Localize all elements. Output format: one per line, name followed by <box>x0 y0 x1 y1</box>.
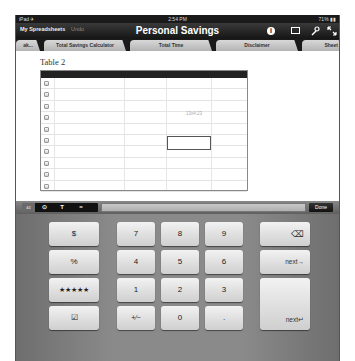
table-row[interactable] <box>41 169 247 180</box>
keyboard-mode-selector: 42 ⊙ T = <box>22 203 98 212</box>
sheet-canvas[interactable]: Table 2 13x4:23 <box>16 51 339 201</box>
table-row[interactable] <box>41 181 247 192</box>
table-row[interactable] <box>41 124 247 135</box>
key-5[interactable]: 5 <box>161 250 199 274</box>
column-divider <box>211 78 212 190</box>
table-row[interactable] <box>41 112 247 123</box>
column-divider <box>54 78 55 190</box>
plus-minus-key[interactable]: +⁄− <box>117 306 155 330</box>
table-row[interactable] <box>41 135 247 146</box>
tab-total-savings-calculator[interactable]: Total Savings Calculator <box>44 40 126 51</box>
column-divider <box>124 78 125 190</box>
checkbox[interactable] <box>44 115 49 120</box>
wrench-icon[interactable] <box>310 26 320 36</box>
checkbox-key[interactable]: ☑ <box>49 306 99 330</box>
tab-divider <box>36 39 44 51</box>
key-3[interactable]: 3 <box>205 278 243 302</box>
tab-disclaimer[interactable]: Disclaimer <box>216 40 298 51</box>
formula-bar: 42 ⊙ T = Done <box>16 201 339 214</box>
info-icon[interactable]: i <box>267 27 275 35</box>
number-mode-button[interactable]: 42 <box>22 203 35 212</box>
sheet-tabs: ak... Total Savings Calculator Total Tim… <box>16 39 339 51</box>
tab-divider <box>208 39 216 51</box>
checkbox[interactable] <box>44 104 49 109</box>
key-4[interactable]: 4 <box>117 250 155 274</box>
table-row[interactable] <box>41 101 247 112</box>
percent-key[interactable]: % <box>49 250 99 274</box>
cell-hint-text: 13x4:23 <box>186 111 202 116</box>
battery-indicator: 71% ▮▮ <box>319 15 336 23</box>
tab-divider <box>122 39 130 51</box>
fullscreen-icon[interactable] <box>327 26 337 36</box>
clock: 2:54 PM <box>16 15 339 23</box>
table-row[interactable] <box>41 158 247 169</box>
checkbox[interactable] <box>44 127 49 132</box>
formula-mode-button[interactable]: = <box>74 203 88 212</box>
next-return-key[interactable]: next↵ <box>260 278 310 330</box>
key-6[interactable]: 6 <box>205 250 243 274</box>
checkbox[interactable] <box>44 161 49 166</box>
table-row[interactable] <box>41 78 247 89</box>
key-2[interactable]: 2 <box>161 278 199 302</box>
table-row[interactable] <box>41 146 247 157</box>
tab-sheet[interactable]: Sheet <box>302 40 340 51</box>
data-table[interactable]: 13x4:23 <box>40 70 248 191</box>
key-9[interactable]: 9 <box>205 222 243 246</box>
currency-key[interactable]: $ <box>49 222 99 246</box>
tab-total-time[interactable]: Total Time <box>130 40 212 51</box>
column-divider <box>166 78 167 190</box>
numeric-keypad: $ % ★★★★★ ☑ 7 8 9 4 5 6 1 2 3 +⁄− 0 . ⌫ … <box>16 214 339 361</box>
date-time-mode-button[interactable]: ⊙ <box>37 203 51 212</box>
text-mode-button[interactable]: T <box>55 203 69 212</box>
checkbox[interactable] <box>44 81 49 86</box>
key-8[interactable]: 8 <box>161 222 199 246</box>
star-rating-key[interactable]: ★★★★★ <box>49 278 99 302</box>
checkbox[interactable] <box>44 138 49 143</box>
tab-divider <box>294 39 302 51</box>
key-1[interactable]: 1 <box>117 278 155 302</box>
key-7[interactable]: 7 <box>117 222 155 246</box>
delete-key[interactable]: ⌫ <box>260 222 310 246</box>
done-button[interactable]: Done <box>309 203 333 212</box>
status-bar: iPad ✈ 2:54 PM 71% ▮▮ <box>16 15 339 23</box>
table-row[interactable] <box>41 89 247 100</box>
key-0[interactable]: 0 <box>161 306 199 330</box>
table-title: Table 2 <box>40 57 65 67</box>
decimal-point-key[interactable]: . <box>205 306 243 330</box>
checkbox[interactable] <box>44 149 49 154</box>
app-frame: iPad ✈ 2:54 PM 71% ▮▮ My Spreadsheets Un… <box>15 15 340 361</box>
toolbar: My Spreadsheets Undo Personal Savings i <box>16 23 339 39</box>
checkbox[interactable] <box>44 172 49 177</box>
selected-cell[interactable] <box>167 136 211 150</box>
table-header-row[interactable] <box>41 71 247 78</box>
checkbox[interactable] <box>44 184 49 189</box>
cell-input-field[interactable] <box>101 203 306 212</box>
image-icon[interactable] <box>291 27 300 34</box>
checkbox[interactable] <box>44 92 49 97</box>
next-right-key[interactable]: next→ <box>260 250 310 274</box>
